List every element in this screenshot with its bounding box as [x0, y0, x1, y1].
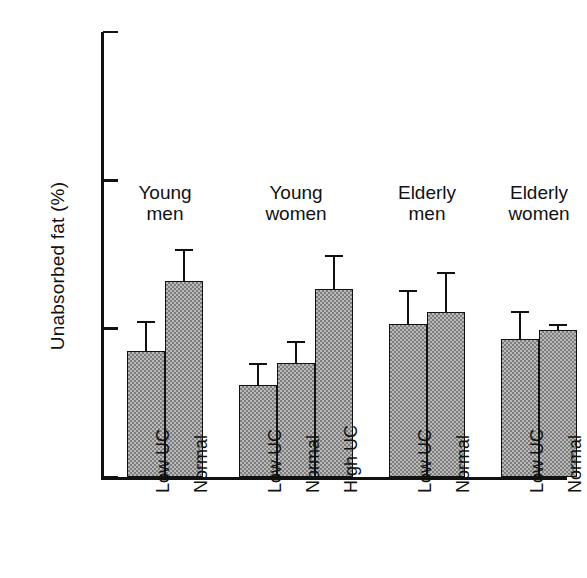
group-label-line2: women: [471, 203, 587, 224]
error-bar: [257, 363, 259, 385]
error-bar-cap: [325, 255, 343, 257]
plot-area: 051015 YoungmenYoungwomenElderlymenElder…: [101, 32, 567, 477]
y-axis-line: [101, 32, 104, 477]
y-axis-title: Unabsorbed fat (%): [47, 116, 69, 416]
error-bar-cap: [249, 363, 267, 365]
y-tick-15: [103, 31, 118, 34]
x-tick-label: Normal: [453, 435, 474, 493]
group-label-line2: women: [209, 203, 383, 224]
error-bar: [183, 249, 185, 282]
error-bar: [295, 341, 297, 363]
error-bar-cap: [175, 249, 193, 251]
group-label-line1: Elderly: [471, 182, 587, 203]
x-tick-label: Low UC: [415, 429, 436, 493]
y-tick-0: [103, 476, 118, 479]
x-tick-label: Normal: [191, 435, 212, 493]
error-bar: [407, 290, 409, 324]
error-bar-cap: [437, 272, 455, 274]
x-tick-label: Low UC: [265, 429, 286, 493]
error-bar-cap: [549, 324, 567, 326]
x-tick-label: Normal: [565, 435, 586, 493]
group-label-line1: Young: [209, 182, 383, 203]
bar-chart: Unabsorbed fat (%) 051015 YoungmenYoungw…: [0, 0, 587, 578]
x-tick-label: Low UC: [527, 429, 548, 493]
y-tick-5: [103, 327, 118, 330]
error-bar-cap: [287, 341, 305, 343]
group-label: Elderlywomen: [471, 182, 587, 225]
error-bar: [519, 311, 521, 339]
error-bar: [145, 321, 147, 351]
error-bar: [445, 272, 447, 312]
error-bar: [333, 255, 335, 289]
error-bar-cap: [137, 321, 155, 323]
error-bar-cap: [399, 290, 417, 292]
group-label: Youngwomen: [209, 182, 383, 225]
x-tick-label: Normal: [303, 435, 324, 493]
error-bar-cap: [511, 311, 529, 313]
x-tick-label: High UC: [341, 425, 362, 493]
x-tick-label: Low UC: [153, 429, 174, 493]
